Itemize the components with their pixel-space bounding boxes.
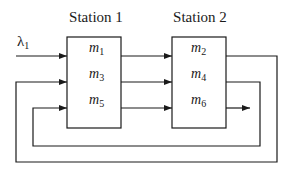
station-1-title: Station 1	[69, 9, 123, 25]
machine-m1-label: m1	[89, 40, 104, 57]
machine-m4-label: m4	[191, 66, 206, 83]
machine-m2-label: m2	[191, 40, 206, 57]
arrival-rate-label: λ1	[17, 33, 29, 51]
reentrant-line-diagram: Station 1 Station 2 λ1 m1 m3 m5 m2 m4 m6	[0, 0, 290, 175]
machine-m6-label: m6	[191, 92, 206, 109]
machine-m3-label: m3	[89, 66, 104, 83]
machine-m5-label: m5	[89, 92, 104, 109]
station-2-title: Station 2	[173, 9, 227, 25]
